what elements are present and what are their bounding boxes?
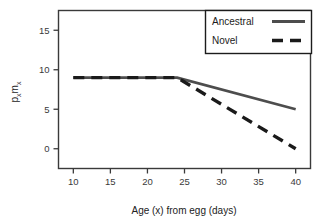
legend-label-ancestral: Ancestral xyxy=(212,16,254,27)
x-tick-label: 25 xyxy=(179,176,190,187)
y-tick-label: 0 xyxy=(44,143,49,154)
x-tick-label: 20 xyxy=(142,176,153,187)
legend-label-novel: Novel xyxy=(212,35,238,46)
y-axis-title-m: m xyxy=(9,85,20,93)
y-axis-title-sub-x2: x xyxy=(15,81,22,85)
legend: Ancestral Novel xyxy=(206,11,312,54)
y-tick-label: 5 xyxy=(44,104,49,115)
x-tick-label: 15 xyxy=(105,176,116,187)
x-tick-label: 35 xyxy=(253,176,264,187)
y-tick-label: 15 xyxy=(39,25,50,36)
x-tick-label: 40 xyxy=(290,176,301,187)
x-tick-label: 10 xyxy=(68,176,79,187)
chart-figure: 051015 10152025303540 Age (x) from egg (… xyxy=(0,0,322,224)
x-tick-label: 30 xyxy=(216,176,227,187)
y-tick-label: 10 xyxy=(39,64,50,75)
x-axis-title: Age (x) from egg (days) xyxy=(131,205,236,216)
